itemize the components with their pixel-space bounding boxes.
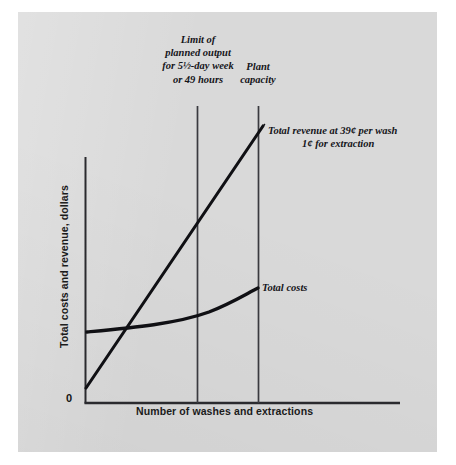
annotation-limit-line1: Limit of [181, 34, 216, 45]
annotation-capacity-line2: capacity [240, 74, 276, 85]
total-revenue-line [86, 126, 263, 388]
revenue-label-line2: 1¢ for extraction [268, 137, 397, 150]
revenue-label-line1: Total revenue at 39¢ per wash [268, 125, 397, 136]
annotation-plant-capacity: Plant capacity [223, 60, 293, 86]
break-even-chart-figure: Number of washes and extractions Total c… [0, 0, 456, 465]
origin-tick-label: 0 [66, 392, 72, 404]
x-axis-title: Number of washes and extractions [136, 405, 313, 417]
y-axis-title: Total costs and revenue, dollars [58, 185, 70, 348]
annotation-limit-line2: planned output [165, 47, 231, 58]
series-label-total-costs: Total costs [262, 281, 307, 294]
total-costs-curve [87, 288, 258, 332]
series-label-total-revenue: Total revenue at 39¢ per wash 1¢ for ext… [268, 124, 397, 150]
plot-area: Number of washes and extractions Total c… [0, 0, 456, 465]
annotation-limit-line4: or 49 hours [173, 74, 223, 85]
annotation-capacity-line1: Plant [246, 61, 269, 72]
